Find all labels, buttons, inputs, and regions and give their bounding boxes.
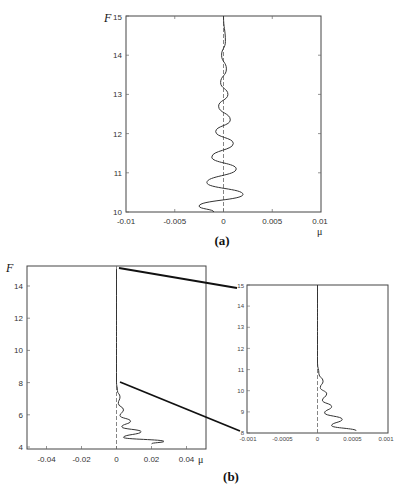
ytick-a-11: 11 — [114, 169, 123, 178]
ytick-inset-10: 10 — [237, 388, 244, 394]
xtick-b-0: 0 — [114, 455, 119, 464]
xtick-inset-00005: 0.0005 — [343, 436, 362, 442]
xtick-b-neg004: -0.04 — [37, 455, 56, 464]
xtick-inset-neg0001: -0.001 — [239, 436, 257, 442]
ytick-inset-11: 11 — [238, 367, 245, 373]
xtick-a-neg0005: -0.005 — [163, 217, 186, 226]
xtick-a-001: 0.01 — [312, 217, 328, 226]
ytick-a-13: 13 — [113, 90, 122, 99]
xtick-a-0005: 0.005 — [262, 217, 283, 226]
ytick-a-14: 14 — [113, 51, 122, 60]
xtick-a-0: 0 — [221, 217, 226, 226]
xtick-inset-0: 0 — [316, 436, 320, 442]
ytick-inset-9: 9 — [241, 409, 245, 415]
ytick-b-14: 14 — [14, 282, 23, 291]
xtick-a-neg001: -0.01 — [117, 217, 136, 226]
xlabel-a: μ — [317, 226, 322, 237]
xtick-inset-0001: 0.001 — [378, 436, 394, 442]
ytick-b-10: 10 — [14, 346, 23, 355]
ytick-inset-15: 15 — [237, 283, 244, 289]
ytick-a-15: 15 — [113, 13, 122, 22]
xtick-b-002: 0.02 — [144, 455, 160, 464]
ytick-b-6: 6 — [19, 411, 24, 420]
ytick-inset-14: 14 — [237, 303, 244, 309]
frame-ticks-b — [27, 286, 187, 449]
ytick-inset-12: 12 — [237, 346, 244, 352]
zoom-connector-top — [119, 268, 237, 288]
ytick-b-8: 8 — [19, 379, 24, 388]
xtick-inset-neg00005: -0.0005 — [272, 436, 293, 442]
data-curve-a — [199, 16, 243, 212]
ytick-a-12: 12 — [113, 130, 122, 139]
figure: 10 11 12 13 14 15 -0.01 -0.005 0 0.005 0… — [0, 0, 409, 495]
panel-label-b: (b) — [223, 469, 239, 484]
ytick-a-10: 10 — [113, 208, 122, 217]
data-curve-b — [117, 269, 164, 444]
ytick-b-4: 4 — [19, 443, 24, 452]
ytick-inset-13: 13 — [237, 324, 244, 330]
data-curve-inset — [318, 285, 357, 431]
ytick-b-12: 12 — [14, 314, 23, 323]
ylabel-a: F — [103, 11, 112, 25]
panel-b-main: 4 6 8 10 12 14 -0.04 -0.02 0 0.02 0.04 F… — [5, 261, 239, 484]
panel-a: 10 11 12 13 14 15 -0.01 -0.005 0 0.005 0… — [103, 11, 328, 248]
xtick-b-004: 0.04 — [179, 455, 195, 464]
xtick-b-neg002: -0.02 — [72, 455, 91, 464]
xlabel-b: μ — [198, 454, 203, 465]
panel-label-a: (a) — [214, 233, 229, 248]
ylabel-b: F — [5, 261, 14, 275]
panel-b-inset: 8 9 10 11 12 13 14 15 -0.001 -0.0005 0 0… — [237, 283, 394, 443]
zoom-connector-bottom — [120, 382, 240, 431]
